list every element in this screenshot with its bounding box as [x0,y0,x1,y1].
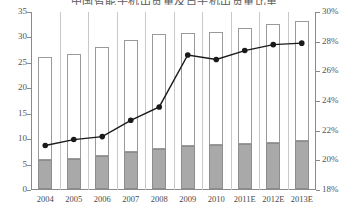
x-axis-label: 2012E [259,194,288,204]
right-tick-mark [316,101,320,102]
line-marker [242,48,248,54]
line-markers [42,40,304,148]
x-axis-label: 2009 [174,194,203,204]
chart-container: 中国智能手机出货量及占手机出货量比重 05101520253035 18%20%… [0,0,348,217]
left-tick-label: 15 [5,109,27,118]
right-tick-mark [316,12,320,13]
line-marker [270,42,276,48]
right-tick-mark [316,160,320,161]
right-tick-label: 28% [322,37,339,46]
right-tick-label: 18% [322,185,339,194]
right-tick-label: 30% [322,7,339,16]
right-tick-label: 22% [322,126,339,135]
line-marker [71,137,77,143]
left-tick-label: 35 [5,7,27,16]
x-axis-label: 2008 [145,194,174,204]
right-tick-label: 26% [322,66,339,75]
x-axis-label: 2010 [202,194,231,204]
line-marker [128,117,134,123]
x-axis-label: 2007 [117,194,146,204]
x-axis-label: 2004 [31,194,60,204]
x-axis-label: 2006 [88,194,117,204]
left-tick-label: 30 [5,32,27,41]
x-axis-label: 2013E [288,194,317,204]
left-tick-mark [27,190,31,191]
left-tick-label: 5 [5,160,27,169]
percentage-line-series [31,12,316,190]
line-marker [299,40,305,46]
line-marker [185,52,191,58]
left-tick-label: 0 [5,185,27,194]
left-tick-label: 10 [5,134,27,143]
line-marker [156,104,162,110]
right-tick-label: 20% [322,155,339,164]
left-tick-label: 20 [5,83,27,92]
right-tick-mark [316,131,320,132]
x-axis-label: 2011E [231,194,260,204]
chart-title-strip: 中国智能手机出货量及占手机出货量比重 [0,0,348,5]
right-tick-mark [316,42,320,43]
line-path [45,43,302,145]
line-marker [213,57,219,63]
page-title: 中国智能手机出货量及占手机出货量比重 [71,0,278,5]
x-axis-labels: 20042005200620072008200920102011E2012E20… [31,194,316,208]
plot-area: 05101520253035 18%20%22%24%26%28%30% [31,12,316,190]
x-axis-label: 2005 [60,194,89,204]
line-marker [42,143,48,149]
right-tick-label: 24% [322,96,339,105]
right-tick-mark [316,71,320,72]
left-tick-label: 25 [5,58,27,67]
right-tick-mark [316,190,320,191]
line-marker [99,134,105,140]
